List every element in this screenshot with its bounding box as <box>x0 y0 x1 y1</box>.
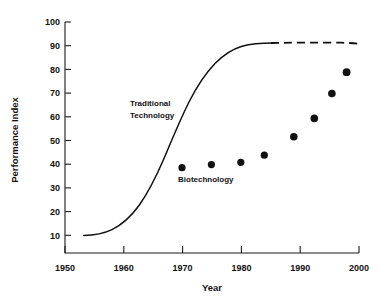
data-point <box>343 68 351 76</box>
x-tick-label-1950: 1950 <box>55 263 75 273</box>
x-axis-title: Year <box>202 282 222 293</box>
x-tick-label-1980: 1980 <box>231 263 251 273</box>
y-tick-label-60: 60 <box>50 112 60 122</box>
data-point <box>261 152 268 159</box>
traditional-technology-curve-dashed <box>271 43 359 44</box>
y-tick-label-10: 10 <box>50 231 60 241</box>
data-point <box>290 133 298 141</box>
data-point <box>178 164 185 171</box>
y-tick-label-90: 90 <box>50 41 60 51</box>
data-point <box>328 90 336 98</box>
y-tick-label-20: 20 <box>50 207 60 217</box>
y-tick-label-40: 40 <box>50 159 60 169</box>
y-tick-marks <box>65 22 71 235</box>
y-tick-label-30: 30 <box>50 183 60 193</box>
y-tick-label-50: 50 <box>50 136 60 146</box>
performance-index-chart: 100 90 80 70 60 50 40 30 20 10 1950 1960… <box>0 0 385 304</box>
y-axis-title: Performance Index <box>9 97 20 183</box>
chart-figure: 100 90 80 70 60 50 40 30 20 10 1950 1960… <box>0 0 385 304</box>
traditional-technology-label-line1: Traditional <box>130 99 170 108</box>
data-point <box>237 159 244 166</box>
y-tick-label-100: 100 <box>45 17 60 27</box>
traditional-technology-curve-solid <box>84 43 273 236</box>
y-tick-label-80: 80 <box>50 65 60 75</box>
traditional-technology-annotation: Traditional Technology <box>130 99 175 120</box>
x-tick-marks <box>65 246 359 253</box>
y-tick-label-70: 70 <box>50 88 60 98</box>
x-tick-labels: 1950 1960 1970 1980 1990 2000 <box>55 263 369 273</box>
x-tick-label-1970: 1970 <box>173 263 193 273</box>
axis-frame <box>65 22 359 253</box>
x-tick-label-1960: 1960 <box>114 263 134 273</box>
traditional-technology-label-line2: Technology <box>130 111 175 120</box>
biotechnology-label: Biotechnology <box>178 175 234 184</box>
data-point <box>208 161 215 168</box>
biotechnology-data-points <box>178 68 350 171</box>
data-point <box>311 115 319 123</box>
x-tick-label-1990: 1990 <box>290 263 310 273</box>
x-tick-label-2000: 2000 <box>349 263 369 273</box>
y-tick-labels: 100 90 80 70 60 50 40 30 20 10 <box>45 17 60 240</box>
